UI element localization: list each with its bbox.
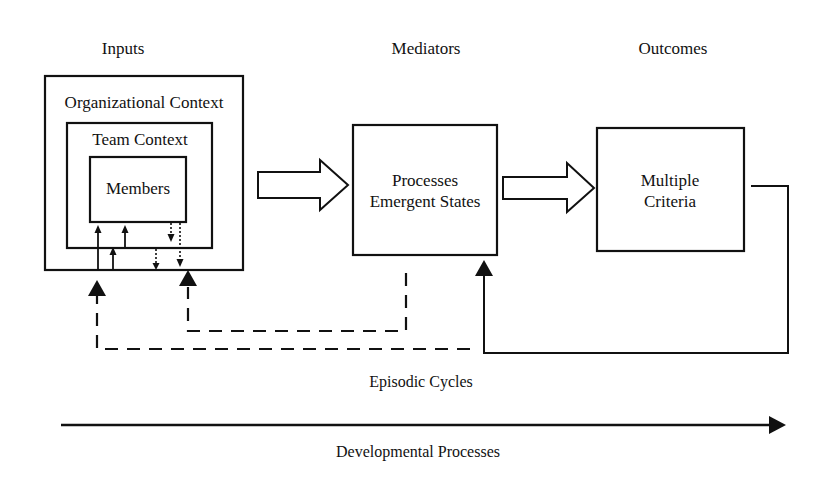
multiple-criteria-line-2: Criteria: [641, 191, 700, 212]
diagram-canvas: [0, 0, 829, 479]
processes-line-1: Processes: [370, 170, 481, 191]
multiple-criteria-label: Multiple Criteria: [641, 170, 700, 213]
processes-line-2: Emergent States: [370, 191, 481, 212]
developmental-processes-label: Developmental Processes: [336, 444, 500, 460]
up-arrowhead-icon: [122, 225, 129, 233]
members-label: Members: [106, 180, 170, 197]
down-arrowhead-icon: [177, 259, 184, 267]
multiple-criteria-line-1: Multiple: [641, 170, 700, 191]
down-arrowhead-icon: [168, 234, 175, 242]
feedback-arrowhead-icon: [475, 260, 493, 276]
outcome-feedback-line: [484, 186, 788, 353]
dashed-arrowhead-team-icon: [179, 270, 197, 286]
dashed-arrowhead-org-icon: [88, 280, 106, 296]
episodic-cycles-label: Episodic Cycles: [369, 374, 473, 390]
organizational-context-label: Organizational Context: [65, 94, 224, 111]
up-arrowhead-icon: [95, 225, 102, 233]
header-inputs: Inputs: [102, 40, 145, 57]
hollow-arrow-mediators-to-outcomes: [503, 163, 594, 212]
dashed-line-mediators-to-team: [188, 273, 406, 331]
header-outcomes: Outcomes: [639, 40, 708, 57]
dashed-line-outcomes-to-org: [97, 296, 470, 349]
processes-label: Processes Emergent States: [370, 170, 481, 213]
developmental-arrowhead-icon: [769, 416, 786, 434]
header-mediators: Mediators: [392, 40, 461, 57]
team-context-label: Team Context: [92, 131, 188, 148]
hollow-arrow-inputs-to-mediators: [258, 160, 348, 210]
